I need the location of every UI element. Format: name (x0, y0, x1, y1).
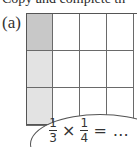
fraction-grid (26, 13, 137, 125)
fraction-one-third: 1 3 (49, 117, 57, 144)
part-label: (a) (2, 13, 21, 33)
numerator: 1 (81, 117, 89, 129)
denominator: 4 (81, 132, 89, 144)
numerator: 1 (49, 117, 57, 129)
grid-cell (107, 13, 134, 51)
grid-cell (80, 51, 107, 89)
grid-cell (26, 51, 53, 89)
grid-cell (26, 13, 53, 51)
result-ellipsis: … (113, 121, 129, 140)
denominator: 3 (49, 132, 57, 144)
grid-cell (80, 13, 107, 51)
grid-cell (107, 51, 134, 89)
multiplication-expression: 1 3 × 1 4 = … (47, 117, 132, 144)
times-sign: × (62, 121, 75, 140)
instruction-text: Copy and complete th (2, 0, 125, 7)
grid-cell (53, 51, 80, 89)
fraction-one-quarter: 1 4 (80, 117, 88, 144)
equals-sign: = (93, 121, 106, 140)
grid-cell (53, 13, 80, 51)
